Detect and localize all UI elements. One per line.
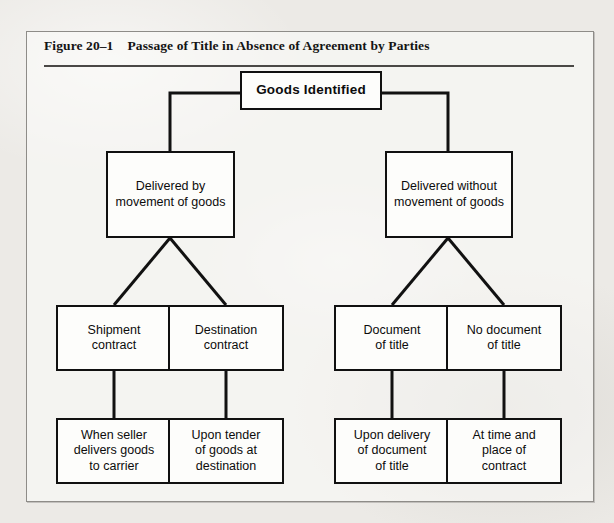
node-when-seller-delivers-goods-to-carrier[interactable]: When sellerdelivers goodsto carrier bbox=[56, 418, 172, 484]
figure-title: Passage of Title in Absence of Agreement… bbox=[127, 38, 429, 53]
node-label: Upon tenderof goods atdestination bbox=[188, 428, 265, 474]
figure-caption: Figure 20–1Passage of Title in Absence o… bbox=[44, 38, 430, 54]
node-at-time-and-place-of-contract[interactable]: At time andplace ofcontract bbox=[446, 418, 562, 484]
node-delivered-without-movement[interactable]: Delivered withoutmovement of goods bbox=[385, 151, 513, 238]
caption-divider bbox=[44, 65, 574, 67]
node-destination-contract[interactable]: Destinationcontract bbox=[168, 305, 284, 371]
node-label: Delivered bymovement of goods bbox=[112, 179, 230, 210]
node-label: Destinationcontract bbox=[191, 323, 262, 354]
node-label: When sellerdelivers goodsto carrier bbox=[70, 428, 159, 474]
node-label: No documentof title bbox=[463, 323, 545, 354]
node-label: Documentof title bbox=[360, 323, 425, 354]
node-label: Goods Identified bbox=[252, 82, 370, 98]
node-goods-identified[interactable]: Goods Identified bbox=[240, 71, 382, 110]
node-label: Shipmentcontract bbox=[84, 323, 145, 354]
node-label: Upon deliveryof documentof title bbox=[350, 428, 434, 474]
figure-number: Figure 20–1 bbox=[44, 38, 113, 53]
node-upon-tender-of-goods-at-destination[interactable]: Upon tenderof goods atdestination bbox=[168, 418, 284, 484]
node-label: Delivered withoutmovement of goods bbox=[390, 179, 508, 210]
node-upon-delivery-of-document-of-title[interactable]: Upon deliveryof documentof title bbox=[334, 418, 450, 484]
figure-page: Figure 20–1Passage of Title in Absence o… bbox=[0, 0, 614, 523]
node-delivered-by-movement[interactable]: Delivered bymovement of goods bbox=[106, 151, 235, 238]
node-document-of-title[interactable]: Documentof title bbox=[334, 305, 450, 371]
node-label: At time andplace ofcontract bbox=[468, 428, 539, 474]
node-no-document-of-title[interactable]: No documentof title bbox=[446, 305, 562, 371]
node-shipment-contract[interactable]: Shipmentcontract bbox=[56, 305, 172, 371]
